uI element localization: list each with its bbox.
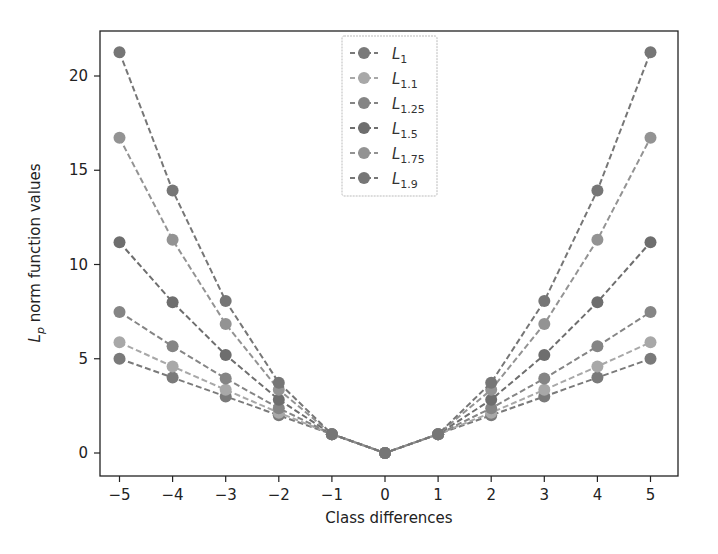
- x-tick-label: −3: [215, 486, 237, 504]
- data-point: [591, 372, 603, 384]
- data-point: [645, 236, 657, 248]
- data-point: [645, 336, 657, 348]
- x-tick-label: −5: [108, 486, 130, 504]
- data-point: [645, 132, 657, 144]
- data-point: [167, 184, 179, 196]
- data-point: [167, 372, 179, 384]
- data-point: [379, 447, 391, 459]
- data-point: [114, 336, 126, 348]
- data-point: [645, 46, 657, 58]
- x-tick-label: 3: [540, 486, 550, 504]
- data-point: [220, 373, 232, 385]
- data-point: [220, 384, 232, 396]
- data-point: [538, 349, 550, 361]
- data-point: [538, 295, 550, 307]
- line-chart: −5−4−3−2−1012345 05101520 Class differen…: [0, 0, 718, 554]
- y-axis-label: Lp norm function values: [26, 163, 47, 342]
- data-point: [485, 377, 497, 389]
- data-point: [114, 46, 126, 58]
- data-point: [167, 296, 179, 308]
- data-point: [167, 340, 179, 352]
- data-point: [538, 384, 550, 396]
- data-point: [591, 234, 603, 246]
- legend-marker: [358, 97, 370, 109]
- y-tick-label: 10: [69, 256, 88, 274]
- series-line: [120, 359, 651, 453]
- data-point: [645, 353, 657, 365]
- series-line: [120, 312, 651, 453]
- data-point: [591, 360, 603, 372]
- data-point: [432, 428, 444, 440]
- x-axis: −5−4−3−2−1012345: [108, 476, 655, 504]
- data-point: [114, 236, 126, 248]
- series-1: [114, 353, 657, 459]
- data-point: [273, 377, 285, 389]
- x-axis-label: Class differences: [325, 509, 453, 527]
- legend-marker: [358, 172, 370, 184]
- data-point: [220, 349, 232, 361]
- data-point: [326, 428, 338, 440]
- y-tick-label: 5: [78, 350, 88, 368]
- data-point: [114, 306, 126, 318]
- data-point: [538, 373, 550, 385]
- data-point: [114, 353, 126, 365]
- series-1.1: [114, 336, 657, 459]
- x-tick-label: 1: [433, 486, 443, 504]
- legend-box: [342, 36, 437, 196]
- legend-marker: [358, 122, 370, 134]
- x-tick-label: −2: [268, 486, 290, 504]
- x-tick-label: −1: [321, 486, 343, 504]
- data-point: [645, 306, 657, 318]
- y-tick-label: 15: [69, 161, 88, 179]
- data-point: [538, 318, 550, 330]
- data-point: [591, 184, 603, 196]
- x-tick-label: 5: [646, 486, 656, 504]
- x-tick-label: −4: [162, 486, 184, 504]
- series-line: [120, 242, 651, 453]
- legend-marker: [358, 147, 370, 159]
- legend-marker: [358, 47, 370, 59]
- data-point: [220, 318, 232, 330]
- data-point: [220, 295, 232, 307]
- series-1.25: [114, 306, 657, 459]
- data-point: [591, 340, 603, 352]
- data-point: [167, 234, 179, 246]
- y-axis: 05101520: [69, 67, 100, 462]
- legend: L1L1.1L1.25L1.5L1.75L1.9: [342, 36, 437, 196]
- y-tick-label: 20: [69, 67, 88, 85]
- series-1.5: [114, 236, 657, 459]
- y-tick-label: 0: [78, 444, 88, 462]
- x-tick-label: 2: [486, 486, 496, 504]
- x-tick-label: 0: [380, 486, 390, 504]
- data-point: [591, 296, 603, 308]
- data-point: [167, 360, 179, 372]
- legend-marker: [358, 72, 370, 84]
- x-tick-label: 4: [593, 486, 603, 504]
- data-point: [114, 132, 126, 144]
- series-line: [120, 342, 651, 453]
